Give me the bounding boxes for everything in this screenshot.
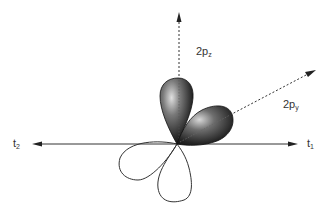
arrow-diagonal-icon <box>305 70 316 77</box>
t1-label-sub: 1 <box>310 143 314 150</box>
t2-label: t2 <box>13 138 20 150</box>
py-label-sub: y <box>295 104 299 111</box>
t2-label-sub: 2 <box>16 143 20 150</box>
outline-lobes <box>119 142 191 202</box>
arrow-right-icon <box>288 142 298 147</box>
pz-label-sub: z <box>208 51 212 58</box>
outline-lobe-left <box>119 142 177 180</box>
arrow-left-icon <box>32 142 42 147</box>
pz-axis <box>177 12 182 80</box>
t1-label: t1 <box>307 138 314 150</box>
pz-label: 2pz <box>196 46 212 58</box>
arrow-up-icon <box>177 12 182 22</box>
py-label: 2py <box>283 99 299 111</box>
pz-label-main: 2p <box>196 45 208 57</box>
py-label-main: 2p <box>283 98 295 110</box>
outline-lobe-bottom <box>158 144 192 202</box>
